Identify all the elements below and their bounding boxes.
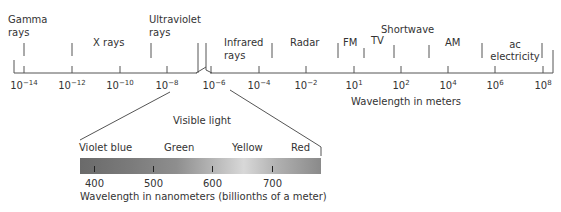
- tv-label: TV: [371, 35, 384, 47]
- bar-tick: [212, 166, 213, 172]
- visible-spectrum-bar: [80, 158, 321, 174]
- ultraviolet-label-line1: Ultraviolet: [149, 14, 201, 26]
- nm-tick-500: 500: [144, 178, 163, 190]
- color-label-green: Green: [164, 142, 194, 154]
- tick-label: 10−4: [247, 79, 270, 91]
- tick-label: 10−10: [106, 79, 134, 91]
- tick-label: 10−14: [10, 79, 38, 91]
- nm-tick-400: 400: [85, 178, 104, 190]
- bar-tick: [153, 166, 154, 172]
- gamma-rays-label-line1: Gamma: [8, 14, 48, 26]
- fm-label: FM: [343, 37, 357, 49]
- tick-label: 10−6: [202, 79, 225, 91]
- main-axis-title: Wavelength in meters: [351, 96, 461, 108]
- ac-electricity-label-line1: ac: [490, 39, 540, 51]
- radar-label: Radar: [290, 37, 319, 49]
- infrared-label-line2: rays: [224, 50, 245, 62]
- infrared-label-line1: Infrared: [224, 37, 263, 49]
- nm-tick-600: 600: [203, 178, 222, 190]
- ultraviolet-label-line2: rays: [149, 27, 170, 39]
- bar-tick: [94, 166, 95, 172]
- shortwave-label: Shortwave: [381, 24, 434, 36]
- nm-axis-title: Wavelength in nanometers (billionths of …: [80, 191, 327, 203]
- am-label: AM: [445, 37, 460, 49]
- tick-label: 108: [534, 79, 551, 91]
- tick-label: 101: [345, 79, 362, 91]
- tick-label: 10−8: [155, 79, 178, 91]
- nm-tick-700: 700: [263, 178, 282, 190]
- x-rays-label: X rays: [93, 37, 124, 49]
- tick-label: 10−12: [58, 79, 86, 91]
- ac-electricity-label-line2: electricity: [490, 51, 540, 63]
- bar-tick: [272, 166, 273, 172]
- tick-label: 104: [439, 79, 456, 91]
- color-label-red: Red: [291, 142, 310, 154]
- color-label-yellow: Yellow: [232, 142, 263, 154]
- tick-label: 102: [392, 79, 409, 91]
- tick-label: 10−2: [294, 79, 317, 91]
- visible-light-title: Visible light: [173, 115, 231, 127]
- tick-label: 106: [486, 79, 503, 91]
- color-label-violet-blue: Violet blue: [79, 142, 132, 154]
- gamma-rays-label-line2: rays: [8, 27, 29, 39]
